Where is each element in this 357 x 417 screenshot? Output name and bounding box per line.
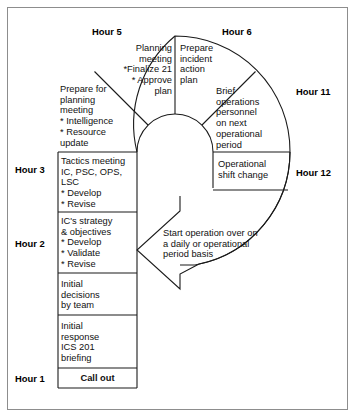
step-initial-decisions: Initial decisions by team (61, 279, 139, 311)
hour-11-label: Hour 11 (296, 86, 330, 97)
hour-1-label: Hour 1 (15, 373, 45, 384)
step-initial-response: Initial response ICS 201 briefing (61, 321, 139, 364)
inner-loop-arc (137, 114, 213, 188)
step-ic-strategy-objectives: IC's strategy & objectives * Develop * V… (61, 216, 139, 270)
step-call-out: Call out (58, 373, 137, 384)
hour-5-label: Hour 5 (92, 26, 122, 37)
hour-2-label: Hour 2 (15, 238, 45, 249)
restart-arrow-label: Start operation over on a daily or opera… (163, 228, 293, 260)
hour-6-label: Hour 6 (222, 26, 252, 37)
step-tactics-meeting: Tactics meeting IC, PSC, OPS, LSC * Deve… (61, 156, 139, 210)
hour-3-label: Hour 3 (15, 164, 45, 175)
step-planning-meeting: Planning meeting *Finalize 21 * Approve … (112, 43, 172, 97)
step-brief-operations-personnel: Brief operations personnel on next opera… (216, 86, 284, 150)
step-prepare-incident-action-plan: Prepare incident action plan (180, 43, 232, 86)
step-operational-shift-change: Operational shift change (218, 159, 290, 180)
planning-p-diagram-page: Hour 5 Hour 6 Hour 11 Hour 12 Hour 3 Hou… (0, 0, 357, 417)
planning-p-vector-graphic (0, 0, 357, 417)
hour-12-label: Hour 12 (296, 167, 331, 178)
